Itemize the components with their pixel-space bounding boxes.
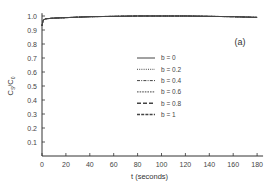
legend-label: b = 0.4 (161, 77, 181, 84)
legend-label: b = 0.6 (161, 88, 181, 95)
x-tick-label: 180 (251, 161, 263, 168)
plot-area: 0.10.20.30.40.50.60.70.80.91.00204060801… (6, 13, 263, 182)
x-tick-label: 120 (180, 161, 192, 168)
y-tick-label: 0.1 (27, 139, 37, 146)
panel-label: (a) (235, 37, 246, 47)
y-tick-label: 0.2 (27, 125, 37, 132)
legend-label: b = 0.8 (161, 100, 181, 107)
series-line (42, 16, 257, 26)
y-tick-label: 0.7 (27, 55, 37, 62)
legend-label: b = 0 (161, 54, 176, 61)
x-tick-label: 20 (62, 161, 70, 168)
x-tick-label: 160 (227, 161, 239, 168)
y-tick-label: 0.9 (27, 27, 37, 34)
x-tick-label: 0 (40, 161, 44, 168)
y-tick-label: 0.4 (27, 97, 37, 104)
y-tick-label: 0.6 (27, 69, 37, 76)
x-tick-label: 80 (134, 161, 142, 168)
y-axis-title: CS/C0 (6, 76, 16, 95)
x-tick-label: 40 (86, 161, 94, 168)
legend-label: b = 0.2 (161, 66, 181, 73)
x-axis-title: t (seconds) (131, 172, 169, 181)
y-tick-label: 0.8 (27, 41, 37, 48)
y-tick-label: 1.0 (27, 13, 37, 20)
y-tick-label: 0.3 (27, 111, 37, 118)
y-tick-label: 0.5 (27, 83, 37, 90)
x-tick-label: 140 (203, 161, 215, 168)
x-tick-label: 60 (110, 161, 118, 168)
x-tick-label: 100 (156, 161, 168, 168)
line-chart: 0.10.20.30.40.50.60.70.80.91.00204060801… (0, 0, 278, 189)
legend-label: b = 1 (161, 111, 176, 118)
